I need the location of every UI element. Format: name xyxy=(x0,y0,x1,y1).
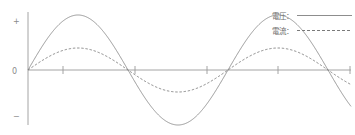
legend-swatch-solid-line xyxy=(297,15,352,16)
legend-item-voltage: 電圧： xyxy=(272,9,352,21)
legend-label-voltage: 電圧： xyxy=(272,10,294,21)
y-axis-plus-label: + xyxy=(13,18,20,26)
legend-swatch-dashed-line xyxy=(297,30,352,31)
legend-label-current: 電流： xyxy=(272,25,294,36)
y-axis-minus-label: − xyxy=(13,113,20,121)
y-axis-zero-label: 0 xyxy=(12,68,17,76)
chart-legend: 電圧： 電流： xyxy=(272,9,352,39)
legend-item-current: 電流： xyxy=(272,24,352,36)
